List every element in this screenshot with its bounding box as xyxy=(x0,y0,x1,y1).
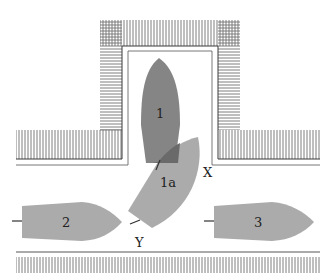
boat-1a-label: 1a xyxy=(160,175,176,190)
berth-right-hatch xyxy=(218,20,240,130)
right-quay-hatch xyxy=(218,130,320,159)
boat-1a-rudder-bottom xyxy=(130,220,140,224)
left-quay-hatch xyxy=(16,130,122,159)
berth-left-hatch xyxy=(100,20,122,130)
boat-2-label: 2 xyxy=(62,215,70,230)
boat-3: 3 xyxy=(204,202,314,241)
boat-berth-diagram: 1 1a 2 3 X Y xyxy=(0,0,335,275)
boat-2: 2 xyxy=(12,202,122,241)
point-x-label: X xyxy=(203,165,213,180)
bottom-quay-hatch xyxy=(16,257,320,273)
point-y-label: Y xyxy=(134,235,144,250)
boat-1-label: 1 xyxy=(156,106,164,121)
boat-3-label: 3 xyxy=(254,215,262,230)
